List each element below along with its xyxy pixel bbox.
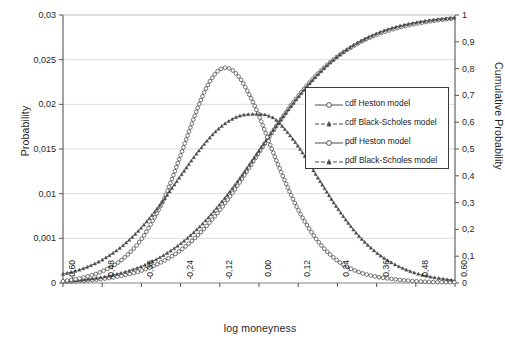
y-axis-right-tick-9: 0,9 (462, 37, 488, 47)
x-axis-tick-10: 0,60 (459, 260, 469, 290)
x-axis-tick-1: -0,48 (106, 260, 116, 290)
y-axis-left-tick-2: 0,01 (0, 189, 56, 199)
legend-label-3: pdf Black-Scholes model (345, 155, 437, 165)
legend-marker-circle-icon (314, 97, 344, 109)
legend-marker-triangle-icon (314, 154, 344, 166)
legend-marker-triangle-icon (314, 116, 344, 128)
legend-item-0: cdf Heston model (314, 96, 410, 110)
y-axis-right-tick-6: 0,6 (462, 117, 488, 127)
y-axis-right-tick-4: 0,4 (462, 171, 488, 181)
legend-marker-circle-icon (314, 135, 344, 147)
x-axis-tick-0: -0,60 (67, 260, 77, 290)
x-axis-tick-3: -0,24 (185, 260, 195, 290)
y-axis-right-tick-10: 1 (462, 10, 488, 20)
legend-item-2: pdf Heston model (314, 134, 411, 148)
y-axis-left-tick-6: 0,03 (0, 10, 56, 20)
legend-item-3: pdf Black-Scholes model (314, 153, 437, 167)
y-axis-left-tick-5: 0,025 (0, 55, 56, 65)
x-axis-tick-8: 0,36 (381, 260, 391, 290)
y-axis-right-tick-3: 0,3 (462, 198, 488, 208)
legend-item-1: cdf Black-Scholes model (314, 115, 437, 129)
x-axis-tick-7: 0,24 (341, 260, 351, 290)
x-axis-tick-6: 0,12 (302, 260, 312, 290)
y-axis-left-title: Probability (19, 76, 31, 186)
y-axis-left-tick-4: 0,02 (0, 99, 56, 109)
y-axis-right-tick-8: 0,8 (462, 64, 488, 74)
legend-label-0: cdf Heston model (345, 98, 410, 108)
y-axis-right-tick-5: 0,5 (462, 144, 488, 154)
legend-label-2: pdf Heston model (345, 136, 411, 146)
x-axis-title: log moneyness (180, 322, 340, 334)
legend-label-1: cdf Black-Scholes model (345, 117, 437, 127)
y-axis-left-tick-3: 0,015 (0, 144, 56, 154)
x-axis-tick-2: -0,36 (145, 260, 155, 290)
y-axis-right-tick-2: 0,2 (462, 224, 488, 234)
y-axis-left-tick-1: 0,001 (0, 233, 56, 243)
x-axis-tick-9: 0,48 (420, 260, 430, 290)
y-axis-right-tick-7: 0,7 (462, 90, 488, 100)
y-axis-right-title: Cumulative Probability (493, 41, 505, 191)
chart-legend: cdf Heston modelcdf Black-Scholes modelp… (305, 87, 449, 169)
x-axis-tick-4: -0,12 (224, 260, 234, 290)
x-axis-tick-5: 0,00 (263, 260, 273, 290)
y-axis-left-tick-0: 0 (0, 278, 56, 288)
